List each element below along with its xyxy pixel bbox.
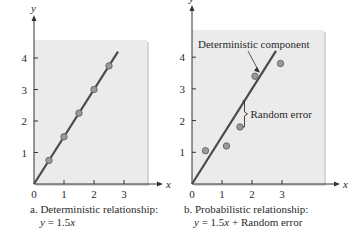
- y-tick-label: 2: [180, 115, 186, 127]
- y-tick-label: 2: [22, 115, 28, 127]
- data-point: [223, 143, 229, 149]
- data-point: [46, 157, 52, 163]
- x-axis-label: x: [165, 178, 171, 190]
- data-point: [237, 124, 243, 130]
- x-tick-label: 2: [91, 188, 97, 200]
- y-axis-label: y: [30, 2, 36, 14]
- x-axis-arrow-icon: [157, 182, 163, 187]
- x-tick-label: 1: [61, 188, 67, 200]
- y-axis-arrow-icon: [32, 15, 37, 21]
- annotation-random-error: Random error: [251, 108, 313, 120]
- y-tick-label: 1: [22, 147, 28, 159]
- x-tick-label: 1: [219, 188, 225, 200]
- y-tick-label: 3: [180, 83, 186, 95]
- y-tick-label: 4: [22, 52, 28, 64]
- caption-b-title: b. Probabilistic relationship:: [184, 203, 308, 216]
- data-point: [106, 63, 112, 69]
- x-tick-label: 3: [121, 188, 127, 200]
- panel-a-deterministic-plot: xy01231234: [22, 2, 172, 200]
- caption-b: b. Probabilistic relationship: y = 1.5x …: [184, 203, 308, 229]
- caption-b-equation: y = 1.5x + Random error: [184, 216, 308, 229]
- caption-a-title: a. Deterministic relationship:: [30, 203, 158, 216]
- y-axis-label: y: [188, 0, 194, 4]
- data-point: [252, 73, 258, 79]
- x-axis-label: x: [342, 178, 348, 190]
- data-point: [61, 134, 67, 140]
- y-tick-label: 1: [180, 146, 186, 158]
- x-axis-arrow-icon: [334, 182, 340, 187]
- x-tick-label: 0: [31, 188, 37, 200]
- x-tick-label: 0: [189, 188, 195, 200]
- data-point: [91, 86, 97, 92]
- data-point: [202, 148, 208, 154]
- panel-b-probabilistic-plot: xy01231234Deterministic componentRandom …: [180, 0, 349, 200]
- annotation-deterministic-component: Deterministic component: [198, 38, 310, 50]
- y-tick-label: 3: [22, 84, 28, 96]
- caption-a: a. Deterministic relationship: y = 1.5x: [30, 203, 158, 229]
- caption-a-equation: y = 1.5x: [30, 216, 158, 229]
- x-tick-label: 2: [249, 188, 255, 200]
- y-axis-arrow-icon: [190, 5, 195, 11]
- data-point: [277, 60, 283, 66]
- y-tick-label: 4: [180, 51, 186, 63]
- data-point: [76, 110, 82, 116]
- figure: xy01231234 xy01231234Deterministic compo…: [0, 0, 364, 236]
- x-tick-label: 3: [279, 188, 285, 200]
